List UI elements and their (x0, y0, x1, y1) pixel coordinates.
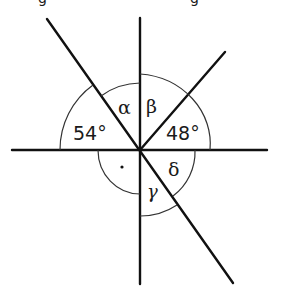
right-angle-dot (120, 165, 123, 168)
label-54: 54° (73, 122, 107, 144)
label-48: 48° (166, 122, 200, 144)
cutoff-text-left: g (38, 0, 47, 6)
label-alpha: α (118, 96, 131, 118)
arc-alpha (101, 83, 140, 96)
arc-gamma (140, 205, 177, 216)
arc-right-angle (98, 150, 140, 194)
label-delta: δ (168, 158, 179, 180)
cutoff-text-right: g (190, 0, 199, 6)
angle-diagram: g g 54° α β 48° δ γ (0, 0, 283, 298)
label-gamma: γ (147, 181, 158, 202)
label-beta: β (146, 95, 157, 117)
